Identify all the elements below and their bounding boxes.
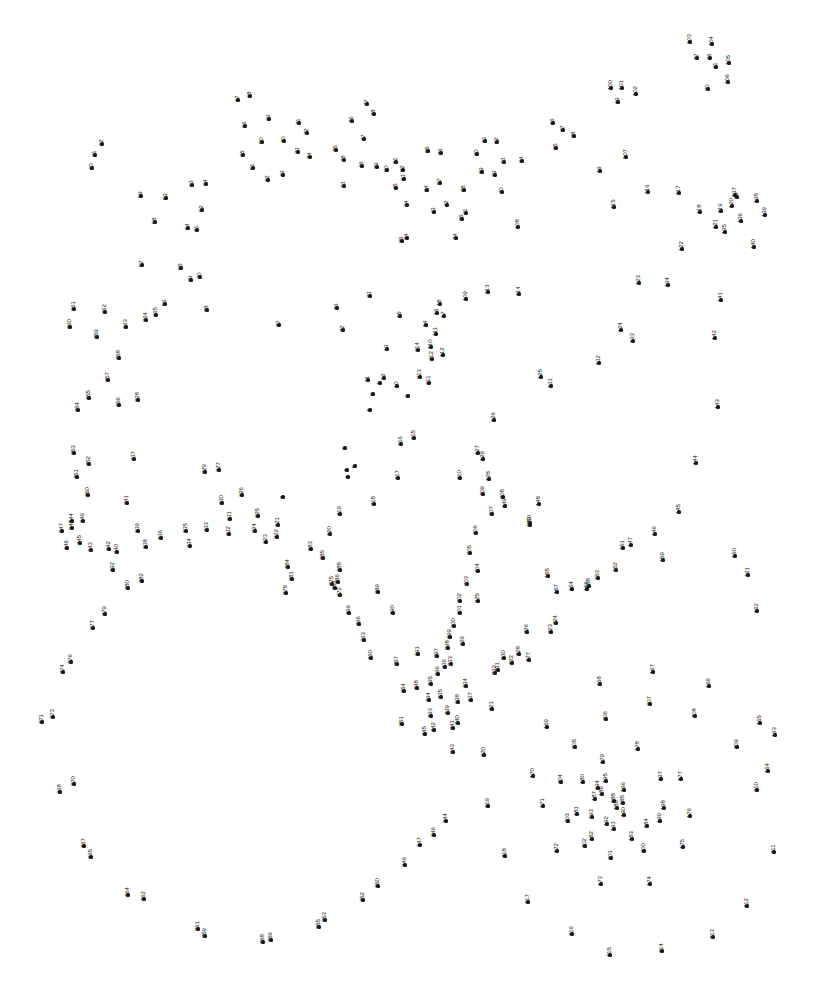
dot-number-label: 288 [336,562,342,572]
dot-number-label: 229 [459,636,465,646]
dot-number-label: 20 [704,84,710,91]
dot-number-label: 304 [474,563,480,573]
dot-number-label: 203 [564,813,570,823]
dot-number-label: 321 [274,517,280,527]
dot-number-label: 5 [351,465,357,468]
dot-number-label: 302 [456,593,462,603]
dot-number-label: 163 [771,727,777,737]
dot-number-label: 98 [570,131,576,138]
dot-number-label: 221 [488,701,494,711]
dot-number-label: 61 [91,150,97,157]
dot-number-label: 164 [764,763,770,773]
dot-number-label: 132 [595,355,601,365]
dot-number-label: 255 [315,919,321,929]
dot-number-label: 251 [398,716,404,726]
dot-number-label: 121 [712,219,718,229]
dot-number-label: 205 [571,739,577,749]
dot-number-label: 330 [218,495,224,505]
dot-number-label: 39 [491,170,497,177]
dot-number-label: 26 [333,303,339,310]
dot-number-label: 199 [656,813,662,823]
dot-number-label: 47 [360,134,366,141]
dot-number-label: 169 [543,719,549,729]
dot-number-label: 232 [491,665,497,675]
dot-number-label: 293 [427,708,433,718]
dot-number-label: 207 [646,696,652,706]
dot-number-label: 196 [620,782,626,792]
dot-number-label: 137 [731,187,737,197]
dot-number-label: 316 [397,436,403,446]
dot-number-label: 30 [196,272,202,279]
dot-number-label: 348 [68,520,74,530]
dot-number-label: 248 [413,680,419,690]
dot-number-label: 362 [101,304,107,314]
dot-number-label: 353 [70,445,76,455]
dot-number-label: 217 [524,894,530,904]
dot-number-label: 236 [441,659,447,669]
dot-number-label: 82 [399,165,405,172]
dot-number-label: 263 [360,632,366,642]
dot-number-label: 208 [691,708,697,718]
dot-number-label: 123 [635,275,641,285]
dot-number-label: 12 [380,373,386,380]
dot-number-label: 235 [437,689,443,699]
dot-number-label: 355 [85,390,91,400]
dot-number-label: 234 [462,678,468,688]
dot-number-label: 283 [307,541,313,551]
dot-number-label: 32 [264,175,270,182]
dot-number-label: 93 [500,157,506,164]
dot-number-label: 138 [753,193,759,203]
dot-number-label: 336 [157,530,163,540]
dot-number-label: 303 [463,576,469,586]
dot-number-label: 306 [472,525,478,535]
dot-number-label: 145 [675,504,681,514]
dot-number-label: 227 [525,652,531,662]
dot-number-label: 238 [454,694,460,704]
dot-number-label: 162 [753,603,759,613]
dot-number-label: 200 [640,843,646,853]
dot-number-label: 254 [400,683,406,693]
dot-number-label: 172 [553,843,559,853]
dot-number-label: 173 [597,876,603,886]
dot-number-label: 100 [607,80,613,90]
dot-number-label: 46 [358,161,364,168]
dot-number-label: 86 [437,148,443,155]
dot-number-label: 63 [188,180,194,187]
dot-number-label: 233 [447,656,453,666]
dot-number-label: 112 [439,348,445,357]
dot-number-label: 129 [479,451,485,461]
dot-number-label: 33 [340,181,346,188]
dot-number-label: 190 [620,807,626,817]
dot-number-label: 158 [585,578,591,588]
dot-number-label: 125 [537,369,543,379]
dot-number-label: 183 [628,831,634,841]
dot-number-label: 54 [184,223,190,230]
dot-number-label: 204 [557,774,563,784]
dot-number-label: 40 [498,187,504,194]
dot-number-label: 195 [602,773,608,783]
dot-number-label: 144 [692,455,698,465]
dot-number-label: 95 [552,143,558,150]
dot-number-label: 223 [547,624,553,634]
dot-number-label: 294 [425,692,431,702]
dot-number-label: 241 [449,720,455,730]
dot-number-label: 185 [619,795,625,805]
dot-number-label: 265 [87,849,93,859]
dot-number-label: 308 [499,489,505,499]
dot-number-label: 314 [414,342,420,352]
dot-number-label: 150 [526,515,532,525]
dot-number-label: 317 [394,470,400,480]
dot-number-label: 27 [275,320,281,327]
dot-number-label: 104 [708,36,714,46]
dot-number-label: 28 [203,305,209,312]
dot-number-label: 78 [370,109,376,116]
dot-number-label: 116 [644,185,650,194]
dot-number-label: 105 [725,55,731,65]
dot-number-label: 359 [93,329,99,339]
dot-number-label: 41 [462,208,468,215]
dot-number-label: 291 [414,646,420,656]
dot-number-label: 167 [649,664,655,674]
dot-number-label: 347 [58,523,64,533]
dot-number-label: 300 [450,618,456,628]
dot-number-label: 335 [182,523,188,533]
